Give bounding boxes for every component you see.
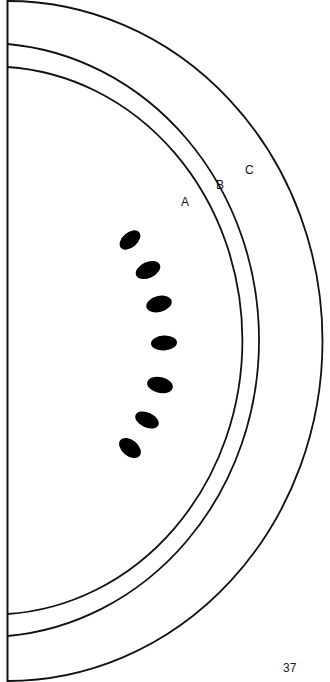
page-number: 37: [283, 662, 296, 674]
watermelon-slice-drawing: [0, 0, 330, 682]
ring-a-inner-arc: [8, 67, 243, 614]
seed-7: [115, 434, 144, 462]
seed-2: [133, 257, 163, 282]
ring-label-a: A: [181, 196, 189, 208]
ring-label-b: B: [216, 179, 224, 191]
seed-4: [151, 335, 178, 351]
seed-3: [144, 293, 173, 315]
seed-6: [133, 408, 162, 432]
seed-1: [116, 227, 144, 254]
seeds-group: [115, 227, 177, 463]
ring-b-middle-arc: [8, 44, 260, 636]
seed-5: [146, 374, 175, 395]
ring-label-c: C: [245, 164, 254, 176]
